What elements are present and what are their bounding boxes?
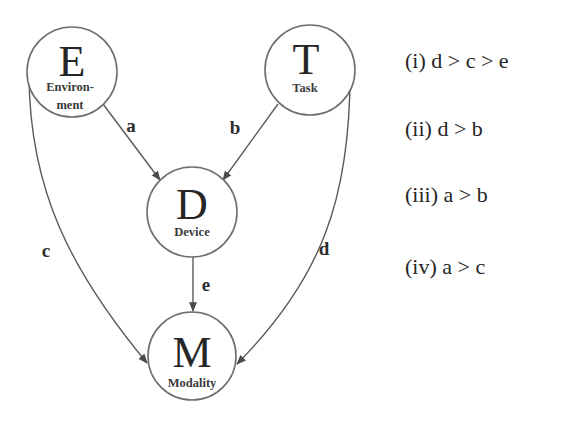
- hypothesis-iv: (iv) a > c: [405, 256, 485, 278]
- diagram-canvas: a b c d e E Environ- ment T Task D Devic…: [0, 0, 566, 434]
- hypothesis-i: (i) d > c > e: [405, 50, 509, 72]
- node-environment: E Environ- ment: [27, 27, 117, 117]
- node-device-letter: D: [176, 180, 208, 229]
- hypothesis-iii: (iii) a > b: [405, 184, 488, 206]
- edge-b-task-to-device: [223, 104, 278, 180]
- node-environment-label-line1: Environ-: [46, 80, 94, 94]
- node-device-label: Device: [174, 225, 210, 239]
- node-task: T Task: [265, 25, 355, 115]
- node-environment-letter: E: [59, 37, 86, 86]
- hypothesis-ii: (ii) d > b: [405, 118, 483, 140]
- node-task-label: Task: [292, 81, 317, 95]
- node-modality-label: Modality: [168, 376, 217, 390]
- edge-label-b: b: [230, 117, 241, 138]
- edge-label-c: c: [42, 240, 50, 261]
- node-modality-letter: M: [172, 328, 211, 377]
- node-device: D Device: [147, 167, 237, 257]
- edge-label-a: a: [126, 115, 136, 136]
- node-modality: M Modality: [148, 312, 236, 400]
- edge-label-e: e: [202, 274, 210, 295]
- edge-label-d: d: [319, 238, 330, 259]
- node-environment-label-line2: ment: [56, 98, 84, 112]
- node-task-letter: T: [293, 35, 320, 84]
